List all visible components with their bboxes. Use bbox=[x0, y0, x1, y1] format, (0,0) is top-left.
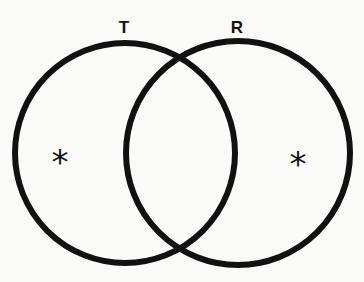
venn-diagram bbox=[0, 0, 364, 282]
set-label-t: T bbox=[119, 19, 129, 36]
set-label-r: R bbox=[231, 19, 243, 36]
asterisk-marker-r-only: * bbox=[290, 147, 307, 181]
asterisk-marker-t-only: * bbox=[52, 145, 69, 179]
